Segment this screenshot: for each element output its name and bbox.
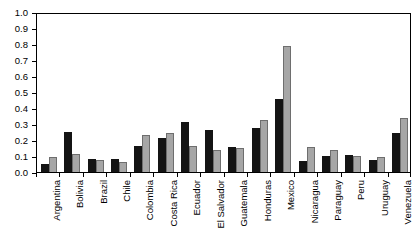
bar (345, 155, 353, 172)
x-tick-mark (270, 173, 271, 177)
bar (166, 133, 174, 172)
bar (41, 164, 49, 172)
bar-group (342, 14, 365, 172)
bar (205, 130, 213, 172)
x-axis-label: Honduras (263, 180, 273, 221)
bar-chart: 0.00.10.20.30.40.50.60.70.80.91.0 Argent… (0, 0, 416, 247)
bar (400, 118, 408, 172)
x-tick-mark (364, 173, 365, 177)
x-axis-label: Peru (356, 180, 366, 200)
x-axis: ArgentinaBoliviaBrazilChileColombiaCosta… (36, 173, 411, 247)
bar (134, 146, 142, 172)
bar-group (37, 14, 60, 172)
x-axis-label: Brazil (99, 180, 109, 204)
bar (88, 159, 96, 172)
y-tick-label: 0.2 (15, 136, 28, 146)
bar (299, 161, 307, 172)
bar (96, 160, 104, 172)
x-tick-mark (59, 173, 60, 177)
x-axis-label: Nicaragua (310, 180, 320, 223)
y-tick-label: 0.5 (15, 88, 28, 98)
bar (236, 148, 244, 172)
bar-group (154, 14, 177, 172)
x-tick-mark (388, 173, 389, 177)
x-axis-label: Paraguay (333, 180, 343, 221)
y-tick-label: 1.0 (15, 8, 28, 18)
x-tick-mark (247, 173, 248, 177)
bar (158, 138, 166, 172)
bar-group (131, 14, 154, 172)
bar-group (248, 14, 271, 172)
y-axis: 0.00.10.20.30.40.50.60.70.80.91.0 (0, 0, 36, 247)
bar (213, 150, 221, 172)
y-tick-label: 0.3 (15, 120, 28, 130)
bar-group (389, 14, 412, 172)
x-tick-mark (224, 173, 225, 177)
bar (283, 46, 291, 172)
y-tick-label: 0.4 (15, 104, 28, 114)
bar-group (178, 14, 201, 172)
y-tick-label: 0.1 (15, 152, 28, 162)
x-tick-mark (341, 173, 342, 177)
bar (181, 122, 189, 172)
bars-container (37, 14, 410, 172)
bar-group (201, 14, 224, 172)
bar (260, 120, 268, 172)
x-axis-label: Argentina (52, 180, 62, 221)
x-tick-mark (317, 173, 318, 177)
bar-group (225, 14, 248, 172)
x-axis-label: Chile (122, 180, 132, 202)
y-tick-label: 0.7 (15, 56, 28, 66)
bar-group (318, 14, 341, 172)
y-tick-label: 0.8 (15, 40, 28, 50)
x-tick-mark (200, 173, 201, 177)
x-axis-label: El Salvador (216, 180, 226, 229)
bar (72, 154, 80, 172)
bar (392, 133, 400, 172)
bar (142, 135, 150, 172)
bar-group (84, 14, 107, 172)
bar (369, 160, 377, 172)
bar (228, 147, 236, 172)
x-axis-label: Costa Rica (169, 180, 179, 226)
y-tick-label: 0.9 (15, 24, 28, 34)
bar (330, 150, 338, 172)
x-tick-mark (106, 173, 107, 177)
bar (189, 146, 197, 172)
x-axis-label: Mexico (286, 180, 296, 210)
x-axis-label: Ecuador (192, 180, 202, 215)
bar (353, 156, 361, 172)
bar (64, 132, 72, 172)
bar (119, 162, 127, 172)
bar (275, 99, 283, 172)
x-tick-mark (83, 173, 84, 177)
x-tick-mark (410, 173, 411, 177)
x-axis-label: Uruguay (380, 180, 390, 216)
x-tick-mark (36, 173, 37, 177)
bar (307, 147, 315, 172)
x-tick-mark (294, 173, 295, 177)
bar-group (365, 14, 388, 172)
x-tick-mark (177, 173, 178, 177)
bar-group (271, 14, 294, 172)
y-tick-label: 0.6 (15, 72, 28, 82)
bar-group (107, 14, 130, 172)
bar-group (60, 14, 83, 172)
bar (322, 156, 330, 172)
x-tick-mark (153, 173, 154, 177)
x-tick-mark (130, 173, 131, 177)
x-axis-label: Guatemala (239, 180, 249, 226)
bar (252, 128, 260, 172)
bar (377, 157, 385, 172)
y-tick-label: 0.0 (15, 168, 28, 178)
x-axis-label: Colombia (145, 180, 155, 220)
x-axis-label: Bolivia (75, 180, 85, 208)
bar-group (295, 14, 318, 172)
bar (111, 159, 119, 172)
plot-area (36, 13, 411, 173)
x-axis-label: Venezuela (403, 180, 413, 224)
bar (49, 157, 57, 172)
